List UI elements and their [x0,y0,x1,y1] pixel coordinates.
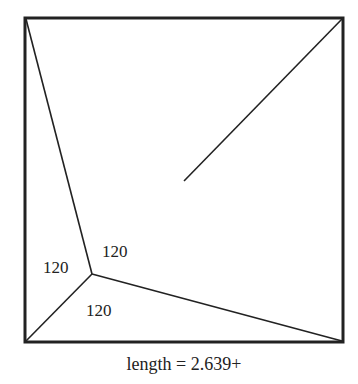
edge-top-right-partial [184,19,342,181]
angle-label-bottom: 120 [86,301,112,320]
steiner-diagram: 120 120 120 length = 2.639+ [0,0,358,384]
edge-bottom-right [92,274,342,341]
angle-label-upper: 120 [102,242,128,261]
edge-bottom-left [26,274,92,341]
edge-top-left [26,19,92,274]
angle-label-left: 120 [43,258,69,277]
length-caption: length = 2.639+ [127,354,242,374]
